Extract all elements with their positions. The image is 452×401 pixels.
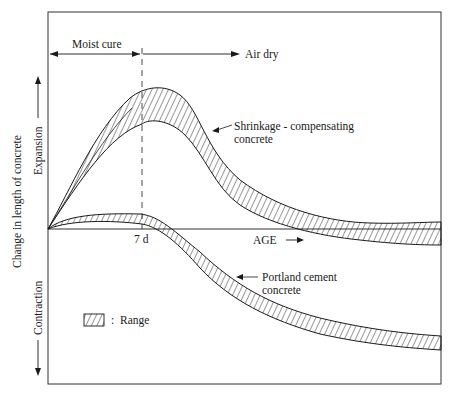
expansion-arrow-icon [35, 76, 41, 84]
age-axis-label: AGE [253, 234, 277, 246]
portland-label-line1: Portland cement [262, 271, 338, 283]
legend-separator: : [111, 314, 114, 326]
air-dry-label: Air dry [245, 48, 279, 61]
air-dry-span-arrow [143, 51, 240, 57]
seven-day-tick-label: 7 d [134, 233, 149, 245]
moist-cure-span-arrow [50, 51, 140, 57]
y-axis-label: Change in length of concrete [11, 135, 24, 268]
legend-range-label: Range [120, 314, 149, 327]
legend-hatch-swatch [84, 314, 104, 326]
contraction-label: Contraction [32, 280, 44, 335]
age-arrow-icon [297, 237, 304, 243]
shrinkage-label-line2: concrete [234, 133, 273, 145]
moist-cure-label: Moist cure [72, 38, 122, 50]
diagram-canvas: Moist cure Air dry Shrinkage - compensat… [0, 0, 452, 401]
contraction-arrow-icon [35, 368, 41, 376]
expansion-label: Expansion [32, 126, 45, 175]
shrinkage-label-line1: Shrinkage - compensating [234, 120, 354, 133]
portland-label-line2: concrete [262, 284, 301, 296]
